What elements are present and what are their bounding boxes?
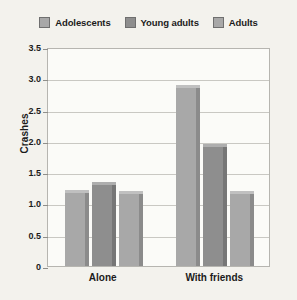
y-axis-tick (43, 143, 48, 144)
y-axis-tick-label: 1.5 (28, 168, 41, 178)
y-axis-tick-label: 1.0 (28, 199, 41, 209)
bar-face (203, 147, 223, 266)
bar[interactable] (92, 182, 116, 266)
legend-swatch-icon (213, 17, 224, 28)
legend-entry[interactable]: Adolescents (39, 17, 110, 28)
bar-face (65, 193, 85, 266)
bar-side-shading (223, 147, 227, 266)
y-axis-tick (43, 80, 48, 81)
bar[interactable] (65, 190, 89, 266)
y-axis-tick (43, 49, 48, 50)
y-axis-tick (43, 205, 48, 206)
bar[interactable] (176, 85, 200, 266)
gridline (48, 143, 269, 144)
chart-legend: AdolescentsYoung adultsAdults (0, 12, 297, 32)
plot-area (47, 48, 270, 267)
bar-side-shading (250, 194, 254, 266)
y-axis-tick-label: 2.5 (28, 106, 41, 116)
x-axis-tick-label: With friends (185, 272, 243, 283)
legend-label: Young adults (141, 17, 199, 28)
bar-side-shading (139, 194, 143, 266)
bar-side-shading (112, 185, 116, 266)
y-axis-tick-label: 0 (36, 262, 41, 272)
bar-face (176, 88, 196, 266)
y-axis-tick (43, 174, 48, 175)
legend-swatch-icon (39, 17, 50, 28)
bar[interactable] (119, 191, 143, 266)
y-axis-tick-label: 0.5 (28, 231, 41, 241)
y-axis-tick (43, 112, 48, 113)
bar-side-shading (196, 88, 200, 266)
y-axis-tick-label: 3.0 (28, 74, 41, 84)
gridline (48, 80, 269, 81)
bar-face (92, 185, 112, 266)
legend-entry[interactable]: Adults (213, 17, 258, 28)
legend-entry[interactable]: Young adults (125, 17, 199, 28)
x-axis-tick-label: Alone (89, 272, 117, 283)
bar-side-shading (85, 193, 89, 266)
legend-label: Adults (229, 17, 258, 28)
bar-face (230, 194, 250, 266)
y-axis-tick (43, 237, 48, 238)
legend-swatch-icon (125, 17, 136, 28)
bar-face (119, 194, 139, 266)
bar[interactable] (203, 144, 227, 266)
gridline (48, 174, 269, 175)
y-axis-tick-labels: 3.53.02.52.01.51.00.50 (14, 48, 41, 267)
y-axis-tick-label: 3.5 (28, 43, 41, 53)
y-axis-tick (43, 268, 48, 269)
gridline (48, 112, 269, 113)
bar[interactable] (230, 191, 254, 266)
y-axis-tick-label: 2.0 (28, 137, 41, 147)
bar-chart: AdolescentsYoung adultsAdults Crashes 3.… (0, 0, 297, 300)
legend-label: Adolescents (55, 17, 110, 28)
